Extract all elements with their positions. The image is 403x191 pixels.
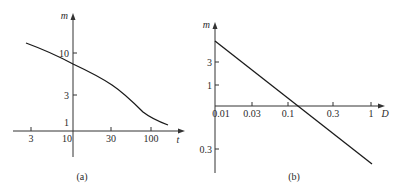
panel-b-data-line (215, 41, 372, 164)
figure-canvas: 10 3 1 3 10 30 100 m t (a) 3 1 0.3 (0, 0, 403, 191)
panel-a: 10 3 1 3 10 30 100 m t (a) (13, 10, 185, 183)
panel-b-x-tick-label: 0.03 (243, 108, 261, 119)
panel-a-data-curve (26, 43, 168, 125)
panel-a-x-axis-arrow-icon (178, 129, 185, 134)
panel-b-x-tick-label: 1 (369, 108, 374, 119)
panel-a-x-tick-label: 10 (62, 133, 72, 144)
panel-a-x-tick-label: 30 (106, 133, 116, 144)
panel-a-y-tick-label: 10 (59, 48, 69, 59)
panel-b-caption: (b) (288, 171, 300, 183)
panel-b-x-tick-label: 0.01 (212, 108, 230, 119)
panel-b-y-axis-arrow-icon (213, 22, 218, 29)
panel-b-y-tick-label: 3 (207, 57, 212, 68)
panel-a-x-tick-label: 100 (144, 133, 159, 144)
panel-a-x-tick-label: 3 (29, 133, 34, 144)
panel-a-y-axis-arrow-icon (71, 13, 76, 20)
panel-b-x-tick-label: 0.1 (282, 108, 295, 119)
panel-b: 3 1 0.3 0.01 0.03 0.1 0.3 1 m D (b) (200, 19, 390, 183)
panel-b-y-tick-label: 1 (207, 80, 212, 91)
panel-b-y-axis-title: m (203, 19, 210, 30)
panel-a-caption: (a) (76, 171, 87, 183)
panel-a-y-tick-label: 3 (64, 90, 69, 101)
panel-a-y-axis-title: m (61, 10, 68, 21)
panel-a-y-tick-label: 1 (64, 117, 69, 128)
panel-b-x-axis-title: D (380, 108, 389, 119)
panel-a-x-axis-title: t (177, 134, 180, 145)
panel-b-y-tick-label: 0.3 (200, 144, 213, 155)
panel-b-x-tick-label: 0.3 (327, 108, 340, 119)
